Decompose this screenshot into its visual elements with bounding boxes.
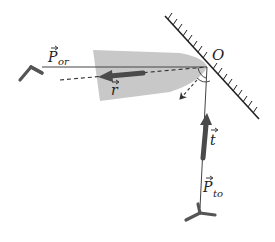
svg-text:to: to bbox=[213, 188, 223, 199]
t-label: t bbox=[210, 128, 218, 148]
receiver-antenna-icon bbox=[20, 67, 42, 80]
svg-text:P: P bbox=[202, 179, 213, 195]
svg-text:t: t bbox=[210, 132, 216, 148]
svg-text:or: or bbox=[58, 56, 70, 67]
reflection-diagram: O P or r t P to bbox=[0, 0, 275, 242]
origin-label: O bbox=[212, 46, 224, 64]
angle-arc-2 bbox=[197, 78, 210, 82]
p-to-label: P to bbox=[202, 176, 223, 199]
svg-text:P: P bbox=[47, 49, 58, 65]
p-or-label: P or bbox=[47, 46, 70, 67]
